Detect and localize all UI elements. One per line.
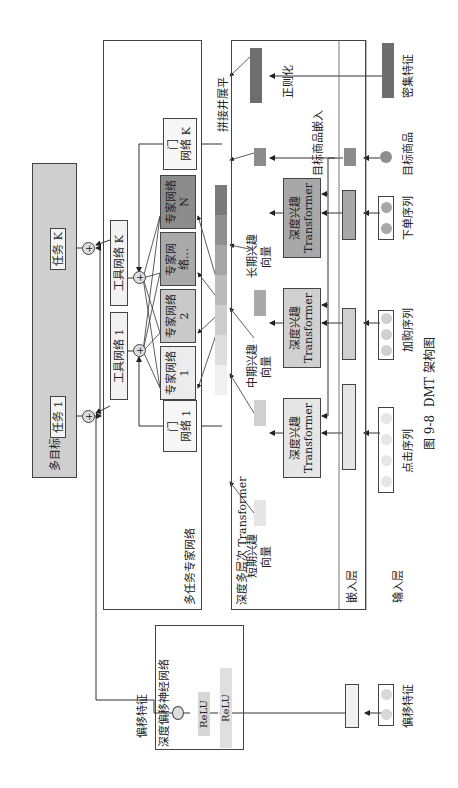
sequence-item-dot: [381, 346, 392, 357]
click-sequence-label: 点击序列: [402, 429, 415, 473]
dense-feature-input: [382, 43, 394, 98]
sequence-item-dot: [381, 330, 392, 341]
gate-network-k: 门 网络 K: [163, 118, 197, 170]
sequence-item-dot: [381, 202, 392, 213]
concat-segment: [215, 275, 227, 305]
relu-layer-2: ReLU: [220, 668, 232, 748]
concat-segment: [215, 305, 227, 335]
bias-output-label: 偏移特征: [136, 694, 149, 738]
cart-embedding: [342, 308, 356, 360]
sequence-item-dot: [381, 434, 392, 445]
expert-2-label: 专家网络 2: [165, 290, 191, 342]
dense-feature-label: 密集特征: [402, 54, 415, 98]
cart-sequence-label: 加购序列: [402, 308, 415, 352]
bias-input-label: 偏移特征: [402, 684, 415, 728]
short-term-vector-label-1: 短期兴趣: [246, 534, 259, 578]
expert-network-1: 专家网络 1: [160, 346, 196, 400]
expert-network-ellipsis: 专家网络…: [160, 232, 196, 286]
relu-1-label: ReLU: [198, 700, 209, 728]
dmt-architecture-diagram: 多目标 任务 1 任务 K + + 多任务专家网络 工具网络 1 工具网络 K …: [0, 0, 458, 788]
concat-segment: [215, 335, 227, 365]
long-term-interest-vector: [254, 290, 266, 316]
transformer-short-line2: Transformer: [302, 403, 315, 473]
concat-flatten-label: 拼接并展平: [217, 77, 230, 132]
target-item-embedding-output: [254, 148, 266, 166]
multi-objective-title: 多目标: [49, 438, 62, 471]
gate-k-line2: 网络 K: [180, 127, 193, 161]
mid-term-vector-label-2: 向量: [260, 356, 273, 378]
order-sequence-input: [378, 196, 394, 240]
target-item-embedding: [344, 148, 356, 166]
sequence-item-dot: [381, 690, 392, 701]
normalize-label: 正则化: [282, 65, 295, 98]
deep-interest-transformer-short: 深度兴趣 Transformer: [283, 398, 321, 478]
sequence-item-dot: [381, 476, 392, 487]
expert-sum-node-1: +: [133, 344, 146, 357]
mid-term-vector-label-1: 中期兴趣: [246, 344, 259, 388]
tower-network-k: 工具网络 K: [110, 220, 128, 306]
sequence-item-dot: [381, 314, 392, 325]
expert-n-label: 专家网络 N: [165, 176, 191, 228]
long-term-vector-label-2: 向量: [260, 246, 273, 268]
expert-network-n: 专家网络 N: [160, 175, 196, 229]
concat-flatten-bar: [215, 185, 227, 395]
expert-1-label: 专家网络 1: [165, 347, 191, 399]
bias-feature-input: [378, 684, 394, 726]
tower-network-1: 工具网络 1: [110, 312, 128, 400]
gate-k-line1: 门: [167, 139, 180, 150]
task-1-box: 任务 1: [50, 396, 66, 438]
click-sequence-input: [378, 407, 394, 493]
transformer-long-line2: Transformer: [302, 183, 315, 253]
task-k-label: 任务 K: [52, 232, 65, 266]
caption-number: 图 9-8: [423, 415, 437, 450]
bias-network-title: 深度偏移神经网络: [158, 659, 171, 747]
short-term-interest-vector: [254, 500, 266, 526]
target-item-dot: [380, 151, 392, 163]
gate-1-line2: 网络 1: [180, 410, 193, 443]
concat-segment: [215, 185, 227, 215]
short-term-vector-label-2: 向量: [260, 546, 273, 568]
relu-layer-1: ReLU: [198, 692, 210, 736]
input-layer-label: 输入层: [392, 570, 405, 603]
embedding-layer-label: 嵌入层: [346, 570, 359, 603]
concat-segment: [215, 365, 227, 395]
mid-term-interest-vector: [254, 400, 266, 426]
bias-output-node: [172, 706, 184, 720]
target-item-label: 目标商品: [402, 132, 415, 176]
sequence-item-dot: [381, 710, 392, 721]
transformer-short-line1: 深度兴趣: [289, 416, 302, 460]
normalized-dense-feature: [250, 48, 262, 103]
task-k-box: 任务 K: [50, 228, 66, 270]
task-1-label: 任务 1: [52, 401, 65, 434]
sum-node-task-1: +: [82, 410, 95, 423]
deep-interest-transformer-long: 深度兴趣 Transformer: [283, 178, 321, 258]
expert-network-2: 专家网络 2: [160, 289, 196, 343]
concat-segment: [215, 215, 227, 245]
target-item-embedding-label: 目标商品嵌入: [312, 110, 325, 176]
caption-title: DMT 架构图: [423, 337, 437, 407]
bias-embedding: [345, 684, 359, 728]
expert-sum-node-k: +: [133, 271, 146, 284]
tower-network-1-label: 工具网络 1: [113, 329, 126, 384]
sum-node-task-k: +: [82, 242, 95, 255]
transformer-long-line1: 深度兴趣: [289, 196, 302, 240]
long-term-vector-label-1: 长期兴趣: [246, 234, 259, 278]
transformer-mid-line1: 深度兴趣: [289, 306, 302, 350]
tower-network-k-label: 工具网络 K: [113, 235, 126, 291]
sequence-item-dot: [381, 223, 392, 234]
transformer-mid-line2: Transformer: [302, 293, 315, 363]
expert-ellipsis-label: 专家网络…: [165, 233, 191, 285]
mmoe-title: 多任务专家网络: [184, 528, 197, 605]
click-embedding: [342, 384, 356, 470]
sequence-item-dot: [381, 455, 392, 466]
sequence-item-dot: [381, 413, 392, 424]
concat-segment: [215, 245, 227, 275]
cart-sequence-input: [378, 310, 394, 360]
gate-network-1: 门 网络 1: [163, 400, 197, 452]
gate-1-line1: 门: [167, 421, 180, 432]
relu-2-label: ReLU: [220, 694, 231, 722]
deep-interest-transformer-mid: 深度兴趣 Transformer: [283, 288, 321, 368]
order-sequence-label: 下单序列: [402, 196, 415, 240]
figure-caption: 图 9-8 DMT 架构图: [424, 337, 437, 450]
order-embedding: [342, 190, 356, 240]
